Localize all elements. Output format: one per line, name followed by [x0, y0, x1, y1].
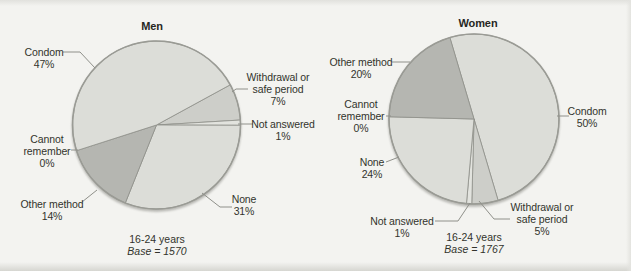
pie-label-text: Withdrawal or safe period: [247, 71, 310, 95]
pie-label-text: Other method: [21, 198, 84, 210]
pie-label-text: Other method: [330, 56, 393, 68]
pie-label-text: Cannot remember: [23, 133, 70, 157]
pie-label-percent: 1%: [251, 130, 315, 142]
pie-label-condom: Condom50%: [567, 105, 606, 129]
pie-label-percent: 0%: [23, 157, 70, 169]
pie-label-text: Cannot remember: [337, 98, 384, 122]
pie-label-condom: Condom47%: [24, 46, 63, 70]
pie-label-percent: 1%: [370, 227, 434, 239]
chart-title-men: Men: [141, 20, 163, 32]
pie-chart-women: [389, 34, 559, 204]
pie-label-not-answered: Not answered1%: [370, 215, 434, 239]
pie-label-cannot-remember: Cannot remember0%: [337, 98, 384, 134]
pie-label-percent: 24%: [360, 168, 385, 180]
contraception-pie-figure: Men Women 16-24 years Base = 1570 16-24 …: [0, 0, 631, 271]
chart-caption-men: 16-24 years Base = 1570: [127, 233, 186, 257]
pie-chart-men: [72, 41, 240, 209]
pie-label-text: Condom: [24, 46, 63, 58]
leader-line-condom: [63, 52, 95, 68]
pie-label-percent: 5%: [511, 225, 574, 237]
pie-label-other-method: Other method20%: [330, 56, 393, 80]
caption-base-women: Base = 1767: [444, 243, 503, 255]
pie-slice-none: [389, 117, 474, 204]
pie-label-none: None31%: [232, 193, 257, 217]
leader-line-not-answered: [435, 203, 470, 221]
pie-label-text: None: [232, 193, 257, 205]
caption-group-women: 16-24 years: [444, 231, 503, 243]
pie-label-other-method: Other method14%: [21, 198, 84, 222]
pie-label-withdrawal-or-safe-period: Withdrawal or safe period7%: [247, 71, 310, 107]
pie-label-text: Not answered: [370, 215, 434, 227]
chart-title-women: Women: [458, 17, 497, 29]
caption-group-men: 16-24 years: [127, 233, 186, 245]
pie-label-not-answered: Not answered1%: [251, 118, 315, 142]
pie-label-percent: 31%: [232, 205, 257, 217]
chart-caption-women: 16-24 years Base = 1767: [444, 231, 503, 255]
pie-label-percent: 47%: [24, 58, 63, 70]
caption-base-men: Base = 1570: [127, 245, 186, 257]
pie-label-text: Condom: [567, 105, 606, 117]
pie-label-text: Withdrawal or safe period: [511, 201, 574, 225]
pie-label-text: Not answered: [251, 118, 315, 130]
leader-line-none: [202, 193, 232, 207]
leader-line-none: [386, 157, 399, 162]
scan-edge-right: [626, 0, 631, 271]
pie-label-withdrawal-or-safe-period: Withdrawal or safe period5%: [511, 201, 574, 237]
leader-line-other-method: [82, 190, 97, 202]
pie-label-percent: 0%: [337, 122, 384, 134]
pie-label-none: None24%: [360, 156, 385, 180]
pie-label-percent: 20%: [330, 68, 393, 80]
scan-edge-top: [0, 0, 631, 6]
pie-label-cannot-remember: Cannot remember0%: [23, 133, 70, 169]
pie-label-percent: 14%: [21, 210, 84, 222]
pie-label-percent: 50%: [567, 117, 606, 129]
pie-label-text: None: [360, 156, 385, 168]
scan-edge-bottom: [0, 262, 631, 271]
pie-label-percent: 7%: [247, 95, 310, 107]
